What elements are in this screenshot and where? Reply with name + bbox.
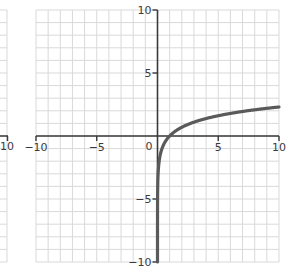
x-tick-label: 10 [272, 141, 286, 154]
left-x-tick-label: 10 [0, 140, 14, 153]
y-tick-label: −5 [135, 193, 151, 206]
x-tick-label: −5 [89, 141, 105, 154]
y-tick-label: 10 [138, 4, 152, 17]
left-partial-panel: 10 [0, 10, 14, 262]
y-tick-label: −10 [128, 256, 151, 269]
x-tick-label: 5 [215, 141, 222, 154]
origin-label: 0 [146, 140, 153, 153]
log-function-chart: 10 −10−5510105−5−100 [0, 0, 289, 273]
x-tick-label: −10 [24, 141, 47, 154]
y-tick-label: 5 [145, 67, 152, 80]
